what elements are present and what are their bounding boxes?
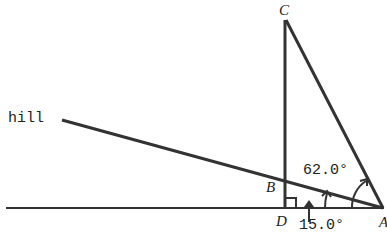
- line-CA: [286, 20, 383, 208]
- angle-arc-15: [325, 193, 327, 208]
- diagram-canvas: C hill B D A 62.0° 15.0°: [0, 0, 387, 239]
- pointer-arrow-15: [304, 200, 314, 207]
- geometry-figure: [0, 0, 387, 239]
- point-label-D: D: [276, 214, 287, 229]
- point-label-B: B: [266, 180, 275, 195]
- angle-label-62: 62.0°: [303, 163, 348, 178]
- point-label-C: C: [279, 3, 289, 18]
- angle-label-15: 15.0°: [299, 218, 344, 233]
- right-angle-marker: [285, 198, 296, 208]
- hill-label: hill: [8, 111, 44, 126]
- point-label-A: A: [379, 215, 387, 230]
